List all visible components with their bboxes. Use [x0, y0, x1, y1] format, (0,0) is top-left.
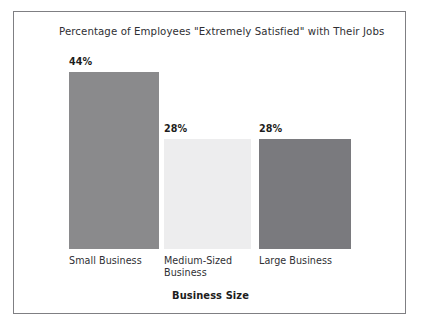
- bar-value-label-small-business: 44%: [69, 56, 92, 67]
- bar-category-line-1: Small Business: [69, 255, 142, 267]
- chart-frame: Percentage of Employees "Extremely Satis…: [13, 11, 406, 314]
- bar-small-business[interactable]: [69, 72, 159, 249]
- bar-category-label-large-business: Large Business: [259, 255, 332, 267]
- bar-medium-business[interactable]: [164, 139, 251, 249]
- bar-category-line-1: Medium-Sized: [164, 255, 232, 267]
- plot-area: 44% Small Business 28% Medium-Sized Busi…: [14, 12, 407, 315]
- bar-category-label-medium-business: Medium-Sized Business: [164, 255, 232, 280]
- bar-large-business[interactable]: [259, 139, 351, 249]
- bar-category-line-1: Large Business: [259, 255, 332, 267]
- bar-category-line-2: Business: [164, 267, 232, 279]
- bar-category-label-small-business: Small Business: [69, 255, 142, 267]
- x-axis-title: Business Size: [14, 290, 407, 301]
- bar-value-label-medium-business: 28%: [164, 123, 187, 134]
- bar-value-label-large-business: 28%: [259, 123, 282, 134]
